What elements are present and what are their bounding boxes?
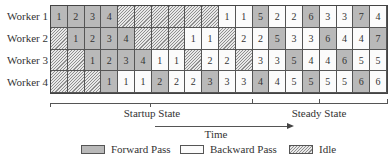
steady-state-label: Steady State [292,107,347,119]
backward-pass-cell: 3 [269,50,286,72]
forward-pass-cell: 2 [68,6,85,28]
backward-pass-cell: 1 [169,50,186,72]
idle-cell [169,28,186,50]
idle-cell [185,50,202,72]
backward-pass-cell: 1 [219,6,236,28]
forward-pass-cell: 6 [353,71,370,93]
forward-pass-cell: 6 [320,28,337,50]
bracket-tick [387,99,388,104]
idle-cell [68,71,85,93]
backward-pass-cell: 4 [337,28,354,50]
idle-cell [202,6,219,28]
bracket-tick [50,103,51,107]
backward-pass-cell: 3 [303,28,320,50]
legend-forward-label: Forward Pass [111,143,171,155]
idle-cell [51,50,68,72]
backward-pass-cell: 1 [118,71,135,93]
forward-pass-cell: 5 [286,50,303,72]
phase-bracket-line [50,103,388,104]
idle-cell [85,71,102,93]
worker-label: Worker 1 [0,5,48,27]
forward-pass-cell: 1 [85,50,102,72]
forward-pass-cell: 3 [118,50,135,72]
legend-backward-label: Backward Pass [210,143,277,155]
forward-pass-cell: 3 [101,28,118,50]
backward-pass-cell: 2 [185,71,202,93]
idle-cell [219,28,236,50]
backward-pass-cell: 3 [337,6,354,28]
idle-cell [51,71,68,93]
time-arrow-line [155,126,288,127]
forward-pass-cell: 2 [101,50,118,72]
backward-pass-cell: 3 [320,6,337,28]
backward-pass-cell: 2 [286,6,303,28]
backward-pass-cell: 3 [253,50,270,72]
legend: Forward Pass Backward Pass Idle [0,143,392,157]
time-axis-label: Time [205,128,228,140]
idle-cell [135,28,152,50]
idle-cell [236,50,253,72]
forward-pass-cell: 3 [85,6,102,28]
arrow-right-icon [287,123,294,129]
forward-pass-cell: 7 [370,28,387,50]
backward-pass-cell: 2 [169,71,186,93]
backward-pass-cell: 3 [219,71,236,93]
backward-pass-cell: 5 [286,71,303,93]
backward-pass-cell: 2 [253,28,270,50]
legend-backward: Backward Pass [180,143,277,155]
backward-pass-cell: 1 [135,71,152,93]
idle-cell [51,28,68,50]
backward-pass-cell: 4 [320,50,337,72]
idle-cell [152,28,169,50]
forward-pass-cell: 6 [337,50,354,72]
forward-pass-cell: 1 [51,6,68,28]
forward-pass-cell: 3 [202,71,219,93]
backward-pass-cell: 5 [353,50,370,72]
bracket-tick [252,99,253,104]
forward-pass-cell: 4 [135,50,152,72]
forward-pass-cell: 1 [101,71,118,93]
backward-pass-cell: 3 [286,28,303,50]
idle-cell [68,50,85,72]
idle-cell [152,6,169,28]
legend-idle-label: Idle [319,143,336,155]
forward-pass-cell: 7 [353,6,370,28]
backward-pass-cell: 3 [236,71,253,93]
idle-swatch-icon [289,145,313,154]
forward-pass-cell: 4 [101,6,118,28]
forward-pass-cell: 4 [118,28,135,50]
forward-pass-cell: 6 [303,6,320,28]
legend-idle: Idle [289,143,336,155]
bracket-tick [319,99,320,104]
backward-pass-cell: 6 [370,71,387,93]
backward-pass-cell: 2 [202,50,219,72]
backward-pass-cell: 1 [152,50,169,72]
forward-pass-cell: 2 [152,71,169,93]
backward-pass-cell: 4 [269,71,286,93]
backward-pass-cell: 1 [202,28,219,50]
idle-cell [118,6,135,28]
forward-pass-cell: 5 [253,6,270,28]
backward-pass-cell: 2 [219,50,236,72]
forward-pass-cell: 2 [85,28,102,50]
backward-pass-cell: 5 [370,50,387,72]
forward-pass-cell: 4 [253,71,270,93]
idle-cell [135,6,152,28]
backward-pass-cell: 2 [236,28,253,50]
backward-pass-cell: 1 [185,28,202,50]
legend-forward: Forward Pass [81,143,171,155]
worker-label: Worker 3 [0,49,48,71]
backward-pass-cell: 1 [236,6,253,28]
backward-pass-cell: 4 [370,6,387,28]
schedule-grid: 1234115226337412341122533644712341122335… [50,5,388,94]
forward-swatch-icon [81,145,105,154]
backward-swatch-icon [180,145,204,154]
backward-pass-cell: 5 [320,71,337,93]
forward-pass-cell: 5 [303,71,320,93]
startup-state-label: Startup State [124,107,181,119]
forward-pass-cell: 1 [68,28,85,50]
worker-label: Worker 4 [0,71,48,93]
idle-cell [185,6,202,28]
worker-label: Worker 2 [0,27,48,49]
idle-cell [169,6,186,28]
